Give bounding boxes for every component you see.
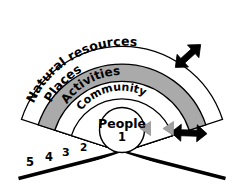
ring-4-number: 4	[45, 150, 53, 164]
ring-5-number: 5	[26, 155, 34, 169]
ring-3-number: 3	[62, 146, 70, 159]
ring-2-number: 2	[80, 141, 87, 153]
concentric-fan-diagram: Natural resources Places Activities Comm…	[0, 0, 238, 187]
center-number: 1	[118, 130, 126, 144]
center-label: People	[98, 116, 146, 131]
